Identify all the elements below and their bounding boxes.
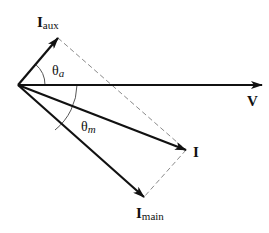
label-i-aux: Iaux	[37, 14, 59, 31]
dashed-line-i-to-main	[144, 150, 186, 197]
phasor-svg: V Iaux I Imain θa θm	[0, 0, 269, 233]
vector-i	[18, 85, 186, 150]
label-theta-m: θm	[81, 119, 96, 135]
vector-i-main	[18, 85, 144, 197]
label-i-main: Imain	[136, 205, 164, 222]
label-v: V	[247, 93, 258, 109]
label-i: I	[193, 144, 199, 160]
theta-a-arc	[36, 64, 46, 85]
dashed-line-aux-to-i	[58, 38, 186, 150]
label-theta-a: θa	[52, 63, 65, 79]
phasor-diagram: V Iaux I Imain θa θm	[0, 0, 269, 233]
